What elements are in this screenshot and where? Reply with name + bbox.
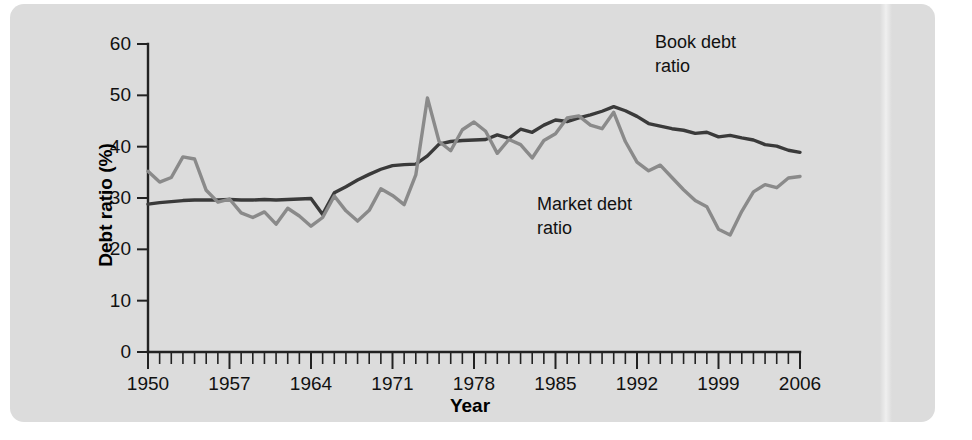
series-line-market-debt-ratio bbox=[148, 98, 800, 235]
market-annotation-line2: ratio bbox=[537, 218, 572, 238]
debt-ratio-line-chart: 0102030405060 19501957196419711978198519… bbox=[0, 0, 972, 440]
y-tick-label: 50 bbox=[110, 84, 131, 105]
x-tick-label: 1978 bbox=[453, 373, 495, 394]
market-annotation-line1: Market debt bbox=[537, 194, 632, 214]
x-tick-label: 1957 bbox=[208, 373, 250, 394]
x-axis: 195019571964197119781985199219992006 bbox=[127, 352, 821, 394]
y-tick-label: 10 bbox=[110, 290, 131, 311]
x-tick-label: 2006 bbox=[779, 373, 821, 394]
x-tick-label: 1950 bbox=[127, 373, 169, 394]
x-tick-label: 1985 bbox=[534, 373, 576, 394]
x-tick-label: 1971 bbox=[371, 373, 413, 394]
book-annotation-line2: ratio bbox=[655, 56, 690, 76]
x-tick-label: 1992 bbox=[616, 373, 658, 394]
x-tick-label: 1964 bbox=[290, 373, 333, 394]
x-tick-label: 1999 bbox=[697, 373, 739, 394]
y-tick-label: 0 bbox=[120, 341, 131, 362]
book-series-annotation: Book debt ratio bbox=[655, 32, 736, 76]
y-axis-title: Debt ratio (%) bbox=[95, 143, 116, 267]
series-lines bbox=[148, 98, 800, 235]
x-axis-title: Year bbox=[450, 395, 491, 416]
y-tick-label: 60 bbox=[110, 33, 131, 54]
book-annotation-line1: Book debt bbox=[655, 32, 736, 52]
figure-root: 0102030405060 19501957196419711978198519… bbox=[0, 0, 972, 440]
market-series-annotation: Market debt ratio bbox=[537, 194, 632, 238]
